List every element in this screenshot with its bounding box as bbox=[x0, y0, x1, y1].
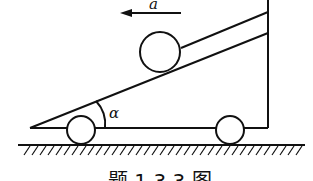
figure-caption: 题 1.3.3 图 bbox=[108, 169, 212, 181]
angle-arc bbox=[96, 101, 105, 128]
incline-upper-rail bbox=[181, 12, 268, 48]
physics-diagram: a α 题 1.3.3 图 bbox=[0, 0, 313, 181]
acceleration-label: a bbox=[149, 0, 158, 13]
wheel-right bbox=[216, 116, 244, 144]
wheel-left bbox=[67, 116, 95, 144]
angle-label: α bbox=[109, 104, 119, 122]
ground-hatching bbox=[24, 146, 302, 155]
arrow-head-icon bbox=[120, 9, 132, 17]
ball bbox=[140, 32, 180, 72]
